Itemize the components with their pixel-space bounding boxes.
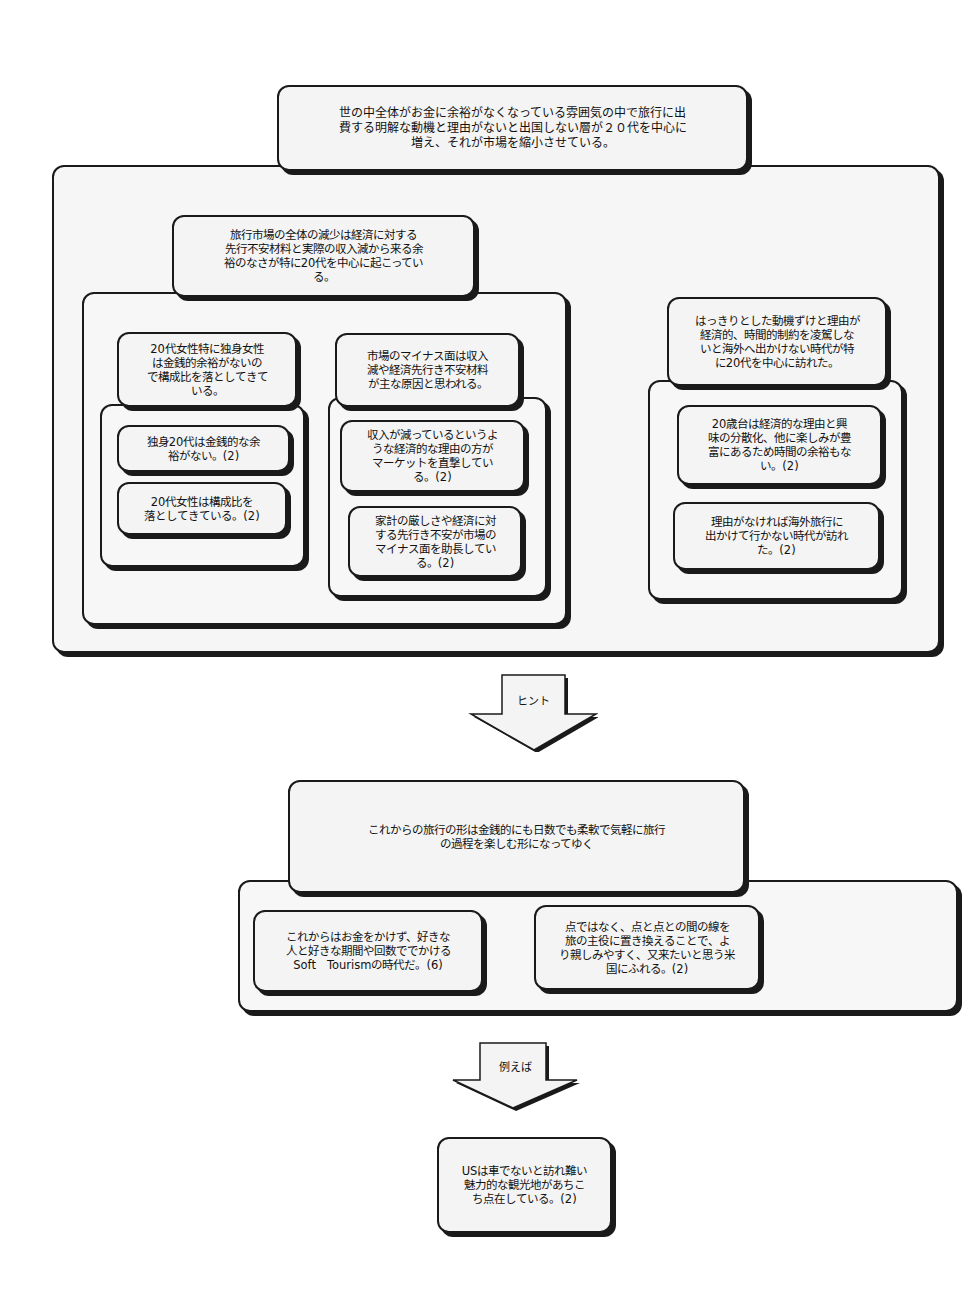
sub-mid-title: 市場のマイナス面は収入 減や経済先行き不安材料 が主な原因と思われる。 xyxy=(337,349,518,391)
future-item-1-text: これからはお金をかけず、好きな 人と好きな期間や回数ででかける Soft Tou… xyxy=(255,930,481,972)
example-box: USは車でないと訪れ難い 魅力的な観光地があちこ ち点在している。(2) xyxy=(437,1137,612,1233)
sub-mid-item-1: 収入が減っているというよ うな経済的な理由の方が マーケットを直撃してい る。(… xyxy=(340,420,525,492)
group-b-title: はっきりとした動機ずけと理由が 経済的、時間的制約を凌駕しな いと海外へ出かけな… xyxy=(669,314,885,370)
arrow-hint-label: ヒント xyxy=(468,692,598,708)
group-a-title: 旅行市場の全体の減少は経済に対する 先行不安材料と実際の収入減から来る余 裕のな… xyxy=(174,228,473,284)
future-item-2: 点ではなく、点と点との間の線を 旅の主役に置き換えることで、よ り親しみやすく、… xyxy=(534,905,760,990)
group-a-title-box: 旅行市場の全体の減少は経済に対する 先行不安材料と実際の収入減から来る余 裕のな… xyxy=(172,215,475,297)
top-conclusion-text: 世の中全体がお金に余裕がなくなっている雰囲気の中で旅行に出 費する明解な動機と理… xyxy=(279,106,746,151)
sub-left-title: 20代女性特に独身女性 は金銭的余裕がないの で構成比を落としてきて いる。 xyxy=(119,342,295,398)
sub-mid-item-2-text: 家計の厳しさや経済に対 する先行き不安が市場の マイナス面を助長してい る。(2… xyxy=(350,514,520,570)
future-title: これからの旅行の形は金銭的にも日数でも柔軟で気軽に旅行 の過程を楽しむ形になって… xyxy=(290,823,743,851)
sub-left-item-1: 独身20代は金銭的な余 裕がない。(2) xyxy=(117,425,290,472)
example-text: USは車でないと訪れ難い 魅力的な観光地があちこ ち点在している。(2) xyxy=(439,1164,610,1206)
future-item-2-text: 点ではなく、点と点との間の線を 旅の主役に置き換えることで、よ り親しみやすく、… xyxy=(536,920,758,976)
group-b-item-1-text: 20歳台は経済的な理由と興 味の分散化、他に楽しみが豊 富にあるため時間の余裕も… xyxy=(679,417,880,473)
sub-left-item-1-text: 独身20代は金銭的な余 裕がない。(2) xyxy=(119,435,288,463)
sub-mid-item-2: 家計の厳しさや経済に対 する先行き不安が市場の マイナス面を助長してい る。(2… xyxy=(348,506,522,577)
down-arrow-hint: ヒント xyxy=(468,672,598,752)
future-item-1: これからはお金をかけず、好きな 人と好きな期間や回数ででかける Soft Tou… xyxy=(253,910,483,992)
group-b-item-2-text: 理由がなければ海外旅行に 出かけて行かない時代が訪れ た。(2) xyxy=(675,515,878,557)
down-arrow-example: 例えば xyxy=(450,1040,580,1112)
top-conclusion-box: 世の中全体がお金に余裕がなくなっている雰囲気の中で旅行に出 費する明解な動機と理… xyxy=(277,85,748,171)
group-b-item-2: 理由がなければ海外旅行に 出かけて行かない時代が訪れ た。(2) xyxy=(673,502,880,570)
group-b-title-box: はっきりとした動機ずけと理由が 経済的、時間的制約を凌駕しな いと海外へ出かけな… xyxy=(667,297,887,386)
sub-left-item-2-text: 20代女性は構成比を 落としてきている。(2) xyxy=(119,495,285,523)
future-title-box: これからの旅行の形は金銭的にも日数でも柔軟で気軽に旅行 の過程を楽しむ形になって… xyxy=(288,780,745,893)
down-arrow-icon xyxy=(468,672,598,752)
sub-left-title-box: 20代女性特に独身女性 は金銭的余裕がないの で構成比を落としてきて いる。 xyxy=(117,332,297,407)
down-arrow-icon xyxy=(450,1040,580,1112)
arrow-example-label: 例えば xyxy=(450,1058,580,1074)
sub-mid-title-box: 市場のマイナス面は収入 減や経済先行き不安材料 が主な原因と思われる。 xyxy=(335,333,520,407)
sub-left-item-2: 20代女性は構成比を 落としてきている。(2) xyxy=(117,482,287,535)
group-b-item-1: 20歳台は経済的な理由と興 味の分散化、他に楽しみが豊 富にあるため時間の余裕も… xyxy=(677,405,882,485)
sub-mid-item-1-text: 収入が減っているというよ うな経済的な理由の方が マーケットを直撃してい る。(… xyxy=(342,428,523,484)
